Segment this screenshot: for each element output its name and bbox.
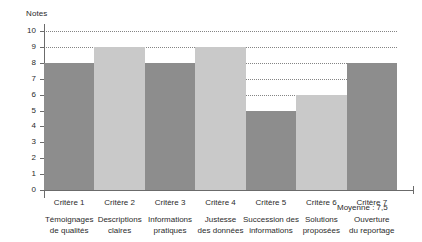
y-tick-mark-1 [40, 174, 44, 175]
y-tick-mark-9 [40, 47, 44, 48]
y-tick-label-5: 5 [20, 107, 36, 115]
bar-1 [44, 63, 94, 190]
y-tick-mark-10 [40, 31, 44, 32]
bar-2 [94, 47, 144, 190]
gridline-10 [44, 31, 397, 32]
x-description-line: du reportage [337, 225, 407, 236]
bar-5 [246, 111, 296, 191]
y-tick-label-7: 7 [20, 75, 36, 83]
y-tick-label-0: 0 [20, 186, 36, 194]
y-tick-label-6: 6 [20, 91, 36, 99]
bar-6 [296, 95, 346, 190]
y-tick-mark-4 [40, 126, 44, 127]
bar-chart: Notes 109876543210 Critère 1Critère 2Cri… [0, 0, 422, 242]
x-category-label-5: Critère 5 [246, 198, 296, 208]
y-tick-label-9: 9 [20, 43, 36, 51]
y-tick-label-10: 10 [20, 27, 36, 35]
x-description-7: Ouverturedu reportage [337, 214, 407, 236]
y-tick-label-4: 4 [20, 122, 36, 130]
x-category-label-4: Critère 4 [195, 198, 245, 208]
y-tick-label-3: 3 [20, 138, 36, 146]
plot-area [44, 31, 397, 190]
gridline-0 [44, 190, 397, 191]
y-tick-label-1: 1 [20, 170, 36, 178]
y-tick-mark-2 [40, 158, 44, 159]
y-tick-mark-6 [40, 95, 44, 96]
x-category-label-1: Critère 1 [44, 198, 94, 208]
y-tick-label-8: 8 [20, 59, 36, 67]
y-tick-mark-5 [40, 111, 44, 112]
bar-7 [347, 63, 397, 190]
y-tick-mark-0 [40, 190, 44, 191]
y-axis-title: Notes [26, 9, 47, 19]
y-tick-mark-7 [40, 79, 44, 80]
average-annotation: Moyenne : 7,5 [337, 203, 388, 213]
x-description-line: Ouverture [337, 214, 407, 225]
x-category-label-3: Critère 3 [145, 198, 195, 208]
y-tick-mark-3 [40, 142, 44, 143]
bar-4 [195, 47, 245, 190]
x-category-label-2: Critère 2 [94, 198, 144, 208]
x-axis-end-tick [413, 186, 414, 194]
x-axis-descriptions: Témoignagesde qualitésDescriptionsclaire… [32, 214, 342, 240]
y-tick-label-2: 2 [20, 154, 36, 162]
bar-3 [145, 63, 195, 190]
y-tick-mark-8 [40, 63, 44, 64]
